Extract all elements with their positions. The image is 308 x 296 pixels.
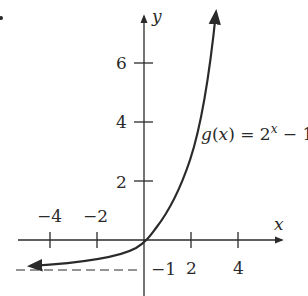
- function-label: g(x) = 2x − 1: [201, 122, 308, 144]
- y-tick-label: 6: [116, 53, 127, 73]
- y-tick-label: 4: [116, 112, 127, 132]
- bullet-dot: [0, 16, 3, 20]
- x-tick-label: 2: [186, 258, 197, 278]
- x-tick-label: −2: [83, 206, 108, 226]
- asymptote-label: −1: [151, 259, 176, 279]
- x-tick-label: 4: [233, 258, 244, 278]
- y-tick-label: 2: [116, 172, 127, 192]
- function-curve: [30, 12, 216, 266]
- graph: −4 −2 2 4 6 4 2 −1 x y g(x) = 2x − 1: [0, 0, 308, 296]
- x-tick-label: −4: [37, 206, 62, 226]
- x-axis-label: x: [274, 214, 284, 234]
- y-axis-label: y: [151, 6, 162, 26]
